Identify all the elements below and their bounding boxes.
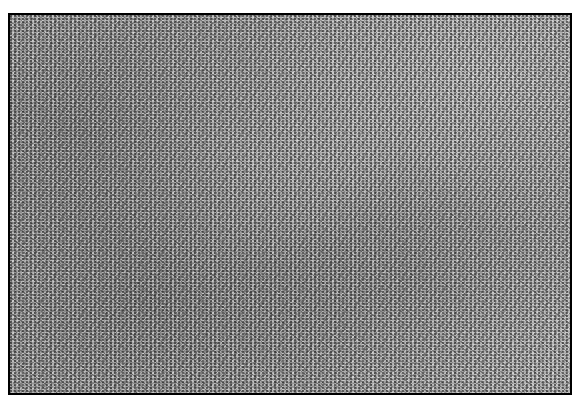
micrograph-figure xyxy=(8,13,572,395)
micrograph-grain xyxy=(10,15,570,393)
cut-off-caption xyxy=(0,0,579,5)
